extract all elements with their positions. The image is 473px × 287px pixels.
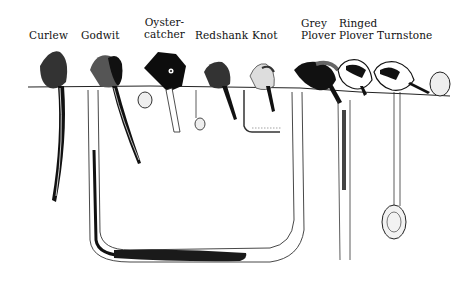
turnstone-bird <box>374 62 450 96</box>
ragworm-burrow <box>338 100 350 260</box>
curlew-bird <box>40 51 67 202</box>
tellin-prey <box>195 118 205 130</box>
ragworm-prey <box>342 110 346 190</box>
godwit-bird <box>90 55 141 164</box>
grey-plover-bird <box>294 62 342 104</box>
diagram-drawing <box>0 0 473 287</box>
redshank-bird <box>204 62 237 120</box>
snail-burrow <box>382 92 406 239</box>
cockle-prey <box>138 92 152 108</box>
periwinkle-prey <box>382 205 406 239</box>
oystercatcher-bird <box>144 52 186 132</box>
mussel-prey <box>430 72 450 96</box>
lugworm-prey <box>114 249 246 261</box>
